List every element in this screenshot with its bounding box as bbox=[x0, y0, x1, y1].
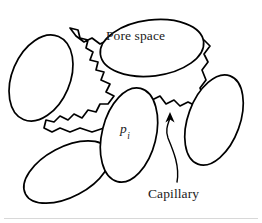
capillary-leader-line bbox=[167, 118, 178, 182]
label-capillary: Capillary bbox=[148, 186, 199, 202]
capillary-arrow-head bbox=[165, 112, 174, 123]
pressure-symbol: p bbox=[120, 121, 127, 136]
figure-porous-medium: Pore space pi Capillary bbox=[0, 0, 262, 223]
pressure-subscript: i bbox=[127, 131, 130, 141]
label-pore-space: Pore space bbox=[106, 28, 165, 44]
label-pressure-pi: pi bbox=[120, 121, 129, 139]
